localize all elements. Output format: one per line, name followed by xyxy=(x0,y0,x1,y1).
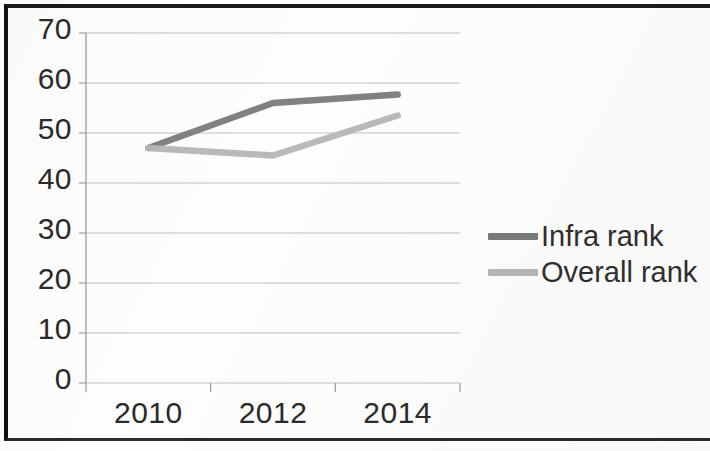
legend-color-swatch-icon xyxy=(488,233,538,240)
line-chart: 010203040506070 201020122014 Infra rankO… xyxy=(0,0,710,451)
chart-legend: Infra rankOverall rank xyxy=(488,218,706,290)
legend-item[interactable]: Overall rank xyxy=(488,254,706,290)
y-axis-tick-label-text: 40 xyxy=(14,162,72,196)
x-axis-tick-label: 2010 xyxy=(83,396,213,430)
y-axis-tick-label-text: 50 xyxy=(14,112,72,146)
x-axis-tick-label: 2012 xyxy=(208,396,338,430)
legend-color-swatch-icon xyxy=(488,269,538,276)
x-axis-tick-label: 2014 xyxy=(333,396,463,430)
y-axis-tick-label-text: 20 xyxy=(14,262,72,296)
series-line xyxy=(148,95,397,149)
chart-screenshot: 010203040506070 201020122014 Infra rankO… xyxy=(0,0,710,451)
y-axis-tick-label-text: 60 xyxy=(14,62,72,96)
y-axis-tick-label-text: 10 xyxy=(14,312,72,346)
y-axis-tick-label-text: 30 xyxy=(14,212,72,246)
legend-item-label: Infra rank xyxy=(541,220,664,253)
y-axis-tick-label-text: 0 xyxy=(14,362,72,396)
y-axis-tick-label-text: 70 xyxy=(14,12,72,46)
legend-item-label: Overall rank xyxy=(541,256,697,289)
legend-item[interactable]: Infra rank xyxy=(488,218,706,254)
